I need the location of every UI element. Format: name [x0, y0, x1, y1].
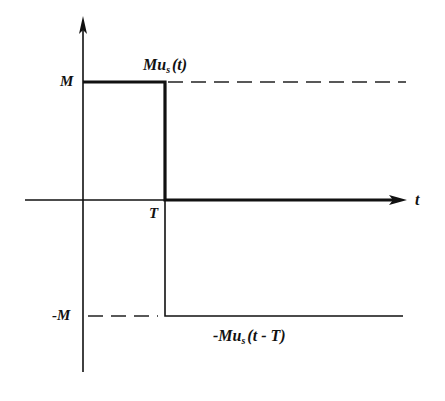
negative-step-line [165, 200, 403, 316]
step-down-label-argument: (t - T) [247, 327, 285, 344]
step-up-label-subscript: s [166, 64, 170, 75]
step-up-label: Mus(t) [143, 57, 187, 73]
upper-level-label: M [60, 74, 73, 89]
step-down-label: -Mus(t - T) [213, 328, 286, 344]
step-down-label-prefix: -Mu [213, 327, 241, 344]
pulse-thick-line [83, 82, 393, 200]
lower-level-label: -M [52, 308, 70, 323]
y-axis [79, 16, 87, 372]
step-up-label-prefix: Mu [143, 56, 166, 73]
step-down-label-subscript: s [241, 335, 245, 346]
step-up-label-argument: (t) [172, 56, 187, 73]
time-marker-label: T [149, 206, 158, 221]
x-axis-label: t [415, 192, 419, 208]
